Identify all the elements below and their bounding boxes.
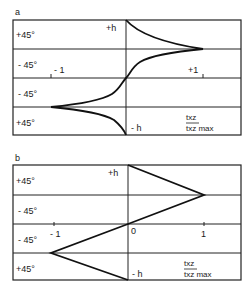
panel-a-top-label: +h (106, 23, 116, 33)
panel-b-layer-angle-3: - 45° (18, 235, 38, 245)
panel-b-layer-angle-1: +45° (16, 176, 35, 186)
panel-b-tick-label-zero: 0 (131, 226, 136, 236)
panel-a-layer-angle-4: +45° (16, 118, 35, 128)
panel-a-tick-label-pos: +1 (188, 65, 198, 75)
panel-a-bottom-label: - h (131, 123, 142, 133)
panel-b-bottom-label: - h (132, 269, 143, 279)
panel-b-tick-label-neg: - 1 (50, 229, 61, 239)
panel-a-layer-angle-3: - 45° (18, 89, 38, 99)
panel-a-layer-angle-1: +45° (16, 30, 35, 40)
panel-a-label: a (15, 7, 20, 17)
diagram-canvas: a +45° - 45° - 45° +45° +h - h - 1 +1 tx… (0, 0, 251, 290)
panel-a: a +45° - 45° - 45° +45° +h - h - 1 +1 tx… (13, 7, 241, 135)
panel-b-frame (13, 165, 241, 280)
panel-b-top-label: +h (108, 168, 118, 178)
panel-b-layer-angle-4: +45° (16, 264, 35, 274)
panel-a-tick-label-neg: - 1 (54, 65, 65, 75)
panel-b-tick-label-pos: 1 (201, 229, 206, 239)
panel-a-xlabel-numerator: txz (186, 113, 196, 122)
panel-a-xlabel-denominator: txz max (186, 124, 214, 133)
panel-b: b +45° - 45° - 45° +45° +h - h - 1 0 1 t… (13, 153, 241, 280)
panel-b-xlabel-denominator: txz max (184, 270, 212, 279)
panel-b-label: b (15, 153, 20, 163)
panel-b-layer-angle-2: - 45° (18, 206, 38, 216)
panel-a-layer-angle-2: - 45° (18, 60, 38, 70)
panel-b-xlabel-numerator: txz (184, 259, 194, 268)
